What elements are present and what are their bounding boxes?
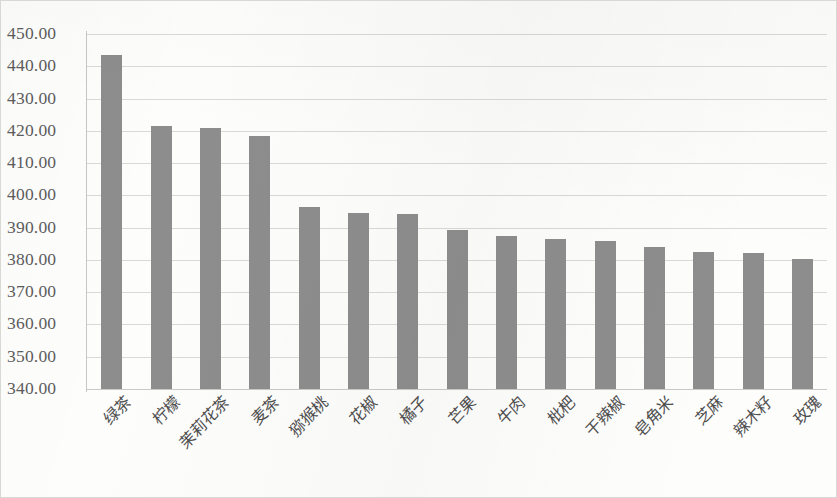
- x-axis-tick-label: 猕猴桃: [286, 393, 332, 440]
- y-axis-tick-labels: 450.00440.00430.00420.00410.00400.00390.…: [7, 34, 85, 389]
- x-axis-tick-label-text: 柠檬: [150, 392, 184, 429]
- x-axis-tick-label: 柠檬: [149, 393, 184, 429]
- gridline: [87, 99, 827, 100]
- gridline: [87, 131, 827, 132]
- x-axis-tick-label-text: 皂角米: [632, 392, 677, 441]
- bar: [743, 253, 764, 389]
- x-axis-tick-label-text: 猕猴桃: [287, 392, 332, 441]
- bar: [249, 136, 270, 389]
- x-axis-tick-label: 枇杷: [544, 393, 579, 429]
- y-axis-tick-label: 400.00: [7, 186, 85, 204]
- x-axis-tick-label-text: 茉莉花茶: [177, 392, 233, 452]
- x-axis-tick-label: 牛肉: [495, 393, 530, 429]
- y-axis-tick-label: 420.00: [7, 122, 85, 140]
- plot-area: [87, 34, 827, 389]
- y-axis-tick-label: 450.00: [7, 25, 85, 43]
- bar: [644, 247, 665, 389]
- bar: [101, 55, 122, 389]
- gridline: [87, 195, 827, 196]
- x-axis-tick-label-text: 芝麻: [692, 392, 726, 429]
- gridline: [87, 66, 827, 67]
- x-axis-tick-label: 辣木籽: [730, 393, 776, 440]
- bar: [200, 128, 221, 389]
- y-axis-tick-label: 440.00: [7, 57, 85, 75]
- x-axis-tick-label: 麦茶: [248, 393, 283, 429]
- x-axis-tick-label: 橘子: [396, 393, 431, 429]
- bar: [792, 259, 813, 389]
- y-axis-tick-label: 390.00: [7, 219, 85, 237]
- x-axis-tick-label-text: 干辣椒: [583, 392, 628, 441]
- y-axis-tick-label: 350.00: [7, 348, 85, 366]
- bar: [299, 207, 320, 389]
- x-axis-tick-label-text: 绿茶: [100, 392, 134, 429]
- y-axis-tick-label: 380.00: [7, 251, 85, 269]
- x-axis-tick-label-text: 橘子: [396, 392, 430, 429]
- x-axis-tick-label: 芝麻: [692, 393, 727, 429]
- bar: [397, 214, 418, 389]
- gridline: [87, 389, 827, 390]
- bar: [151, 126, 172, 389]
- bar: [545, 239, 566, 389]
- bar-chart-image: 450.00440.00430.00420.00410.00400.00390.…: [0, 0, 837, 498]
- y-axis-tick-label: 360.00: [7, 315, 85, 333]
- x-axis-tick-label-text: 麦茶: [248, 392, 282, 429]
- x-axis-tick-label-text: 芒果: [446, 392, 480, 429]
- gridline: [87, 34, 827, 35]
- x-axis-tick-label: 绿茶: [100, 393, 135, 429]
- bar: [348, 213, 369, 389]
- y-axis-tick-label: 410.00: [7, 154, 85, 172]
- x-axis-tick-label: 花椒: [347, 393, 382, 429]
- bar: [447, 230, 468, 389]
- gridline: [87, 163, 827, 164]
- bar: [595, 241, 616, 389]
- y-axis-tick-label: 340.00: [7, 380, 85, 398]
- y-axis-tick-label: 370.00: [7, 283, 85, 301]
- bar: [693, 252, 714, 389]
- x-axis-tick-label-text: 玫瑰: [791, 392, 825, 429]
- x-axis-tick-label-text: 辣木籽: [731, 392, 776, 441]
- x-axis-tick-label: 玫瑰: [791, 393, 826, 429]
- x-axis-tick-label: 干辣椒: [582, 393, 628, 440]
- y-axis-tick-label: 430.00: [7, 90, 85, 108]
- x-axis-tick-label: 芒果: [445, 393, 480, 429]
- x-axis-tick-label: 茉莉花茶: [177, 393, 234, 452]
- x-axis-tick-labels: 绿茶柠檬茉莉花茶麦茶猕猴桃花椒橘子芒果牛肉枇杷干辣椒皂角米芝麻辣木籽玫瑰: [87, 393, 827, 493]
- gridline: [87, 228, 827, 229]
- bar: [496, 236, 517, 389]
- x-axis-tick-label-text: 枇杷: [544, 392, 578, 429]
- x-axis-tick-label-text: 花椒: [347, 392, 381, 429]
- x-axis-tick-label: 皂角米: [632, 393, 678, 440]
- x-axis-tick-label-text: 牛肉: [495, 392, 529, 429]
